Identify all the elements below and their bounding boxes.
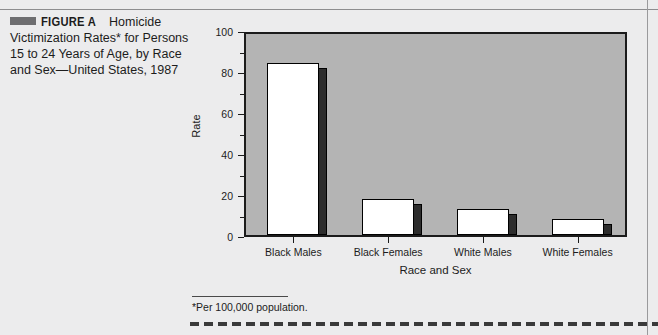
x-tick-mark xyxy=(483,237,484,243)
x-tick-label-black-females: Black Females xyxy=(354,246,423,258)
bar-group xyxy=(552,34,604,235)
y-tick-label-100: 100 xyxy=(215,26,233,38)
bar-group xyxy=(457,34,509,235)
plot-area xyxy=(244,32,627,237)
y-tick-label-80: 80 xyxy=(221,67,233,79)
top-divider-rule xyxy=(0,9,658,10)
y-axis: 100 80 60 40 20 xyxy=(196,32,244,237)
bottom-dashed-rule xyxy=(190,322,658,326)
x-tick-mark xyxy=(578,237,579,243)
figure-heading-line: FIGURE AHomicide xyxy=(10,13,190,30)
x-tick-label-white-males: White Males xyxy=(454,246,512,258)
bar-white-females xyxy=(552,219,604,235)
y-tick-label-60: 60 xyxy=(221,108,233,120)
footnote-text: *Per 100,000 population. xyxy=(192,301,308,313)
bar-side-face xyxy=(603,224,612,235)
figure-caption: FIGURE AHomicide Victimization Rates* fo… xyxy=(10,13,190,79)
bar-black-males xyxy=(267,63,319,235)
caption-body: Victimization Rates* for Persons 15 to 2… xyxy=(10,30,190,79)
y-tick-label-40: 40 xyxy=(221,149,233,161)
x-tick-label-white-females: White Females xyxy=(543,246,613,258)
x-axis-title: Race and Sex xyxy=(244,264,627,276)
bar-group xyxy=(267,34,319,235)
x-tick-mark xyxy=(388,237,389,243)
bar-chart: 100 80 60 40 20 xyxy=(196,22,636,284)
y-axis-title: Rate xyxy=(190,114,202,137)
bar-white-males xyxy=(457,209,509,235)
caption-first-segment: Homicide xyxy=(109,15,161,29)
bar-side-face xyxy=(508,214,517,235)
x-tick-mark xyxy=(293,237,294,243)
y-tick-label-0: 0 xyxy=(227,231,233,243)
figure-label: FIGURE A xyxy=(41,14,96,29)
bar-group xyxy=(362,34,414,235)
right-margin-rule xyxy=(647,0,648,335)
bar-black-females xyxy=(362,199,414,235)
bar-series xyxy=(246,34,625,235)
figure-swatch-icon xyxy=(10,17,36,25)
y-tick-label-20: 20 xyxy=(221,190,233,202)
x-tick-label-black-males: Black Males xyxy=(265,246,322,258)
bar-side-face xyxy=(413,204,422,235)
bar-side-face xyxy=(318,68,327,235)
footnote-rule xyxy=(192,296,288,297)
